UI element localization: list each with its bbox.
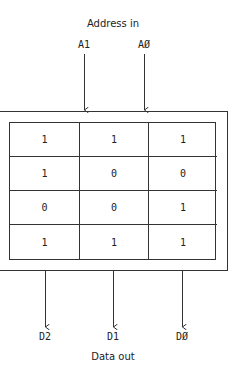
cell-r1-c0: 1 [10,157,80,191]
output-label-d1: D1 [107,331,119,342]
memory-table: 1 1 1 1 0 0 0 0 1 1 1 1 [9,122,216,260]
data-out-title: Data out [91,351,134,362]
cell-r2-c1: 0 [80,191,149,225]
cell-r2-c2: 1 [149,191,217,225]
cell-r0-c2: 1 [149,123,217,157]
cell-r2-c0: 0 [10,191,80,225]
cell-r0-c0: 1 [10,123,80,157]
cell-r3-c1: 1 [80,225,149,259]
cell-r3-c2: 1 [149,225,217,259]
output-label-d2: D2 [39,331,51,342]
cell-r1-c2: 0 [149,157,217,191]
cell-r0-c1: 1 [80,123,149,157]
cell-r1-c1: 0 [80,157,149,191]
cell-r3-c0: 1 [10,225,80,259]
output-label-d0: DØ [176,331,188,342]
